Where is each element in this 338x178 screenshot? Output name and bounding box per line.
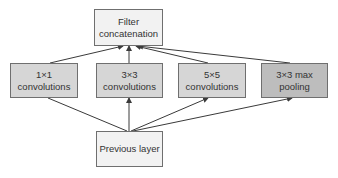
node-label: 5×5 convolutions: [179, 69, 245, 93]
edge-pool-to-concat: [138, 46, 290, 63]
conv-3x3-node: 3×3 convolutions: [96, 63, 163, 98]
inception-module-diagram: Filter concatenation 1×1 convolutions 3×…: [0, 0, 338, 178]
node-label: 3×3 convolutions: [97, 69, 162, 93]
edge-5x5-to-concat: [136, 46, 208, 63]
node-label: 3×3 max pooling: [262, 69, 327, 93]
edge-prev-to-pool: [133, 98, 292, 131]
node-label-line2: concatenation: [99, 28, 158, 40]
node-label: 1×1 convolutions: [11, 69, 77, 93]
node-label: Previous layer: [99, 143, 159, 155]
conv-1x1-node: 1×1 convolutions: [10, 63, 78, 98]
edge-prev-to-1x1: [48, 98, 127, 131]
filter-concatenation-node: Filter concatenation: [94, 9, 163, 46]
previous-layer-node: Previous layer: [96, 131, 163, 167]
edge-1x1-to-concat: [50, 46, 123, 63]
edge-prev-to-5x5: [131, 98, 208, 131]
node-label-line1: Filter: [118, 16, 139, 28]
max-pooling-node: 3×3 max pooling: [261, 63, 328, 98]
conv-5x5-node: 5×5 convolutions: [178, 63, 246, 98]
